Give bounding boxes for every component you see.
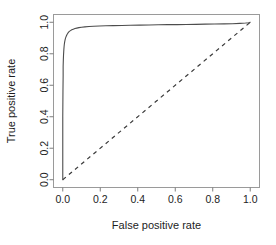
x-axis-title: False positive rate	[112, 219, 201, 231]
y-axis-title: True positive rate	[5, 59, 17, 144]
y-tick-label: 1.0	[39, 15, 51, 30]
y-tick-label: 0.4	[39, 109, 51, 124]
x-tick-label: 1.0	[243, 193, 258, 205]
x-tick-label: 0.8	[205, 193, 220, 205]
x-tick-label: 0.2	[93, 193, 108, 205]
x-tick-label: 0.0	[55, 193, 70, 205]
y-tick-label: 0.8	[39, 46, 51, 61]
y-tick-label: 0.0	[39, 172, 51, 187]
y-tick-label: 0.2	[39, 141, 51, 156]
x-tick-label: 0.6	[168, 193, 183, 205]
roc-plot-canvas: 0.00.20.40.60.81.0 0.00.20.40.60.81.0 Fa…	[0, 0, 276, 245]
roc-plot-figure: 0.00.20.40.60.81.0 0.00.20.40.60.81.0 Fa…	[0, 0, 276, 245]
y-tick-label: 0.6	[39, 78, 51, 93]
x-tick-label: 0.4	[130, 193, 145, 205]
